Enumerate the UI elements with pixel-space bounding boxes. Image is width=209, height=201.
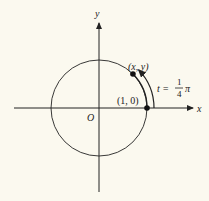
arc-label-numerator: 1 <box>177 77 182 87</box>
origin-label: O <box>87 112 94 123</box>
arc-label-denominator: 4 <box>177 89 182 99</box>
arc-label-lhs: t = <box>157 83 169 94</box>
arc-label-pi: π <box>185 83 191 94</box>
point-end <box>130 71 136 77</box>
end-point-label: (x, y) <box>128 61 149 73</box>
x-axis-label: x <box>196 103 202 114</box>
start-point-label: (1, 0) <box>117 95 139 107</box>
y-axis-label: y <box>94 8 100 19</box>
point-start <box>144 105 150 111</box>
unit-circle-diagram: x y O (1, 0) (x, y) t = 1 4 π <box>0 0 209 201</box>
